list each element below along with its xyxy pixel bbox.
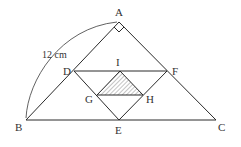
right-angle-marker: [114, 27, 124, 32]
point-label-A: A: [115, 6, 123, 18]
diagram-canvas: 12 cm A B C D E F G H I: [0, 0, 241, 147]
point-label-G: G: [85, 93, 93, 105]
point-label-B: B: [15, 121, 22, 133]
geometry-diagram: 12 cm A B C D E F G H I: [0, 0, 241, 147]
measurement-label: 12 cm: [42, 49, 67, 60]
point-label-E: E: [115, 124, 122, 136]
point-label-I: I: [116, 56, 120, 68]
point-label-H: H: [146, 93, 154, 105]
point-label-F: F: [172, 65, 178, 77]
shaded-triangle-IGH: [97, 71, 143, 95]
point-label-C: C: [218, 121, 225, 133]
point-label-D: D: [63, 65, 71, 77]
